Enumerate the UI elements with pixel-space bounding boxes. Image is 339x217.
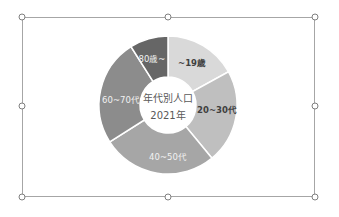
chart-title-line2: 2021年 bbox=[150, 109, 185, 121]
chart-title-line1: 年代別人口 bbox=[143, 92, 193, 104]
segment-label-under-19: ~19歳 bbox=[178, 58, 206, 68]
doughnut-chart: ~19歳 20~30代 40~50代 60~70代 80歳~ 年代別人口 202… bbox=[0, 0, 339, 217]
segment-label-60-70s: 60~70代 bbox=[102, 95, 140, 105]
doughnut-hole bbox=[140, 77, 196, 133]
segment-label-80-plus: 80歳~ bbox=[139, 54, 166, 64]
segment-label-40-50s: 40~50代 bbox=[149, 152, 187, 162]
segment-label-20-30s: 20~30代 bbox=[197, 105, 237, 115]
